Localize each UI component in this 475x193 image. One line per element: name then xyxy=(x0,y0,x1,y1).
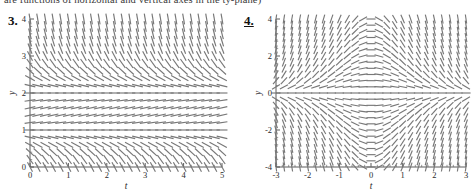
figure-4-xtick-5: 2 xyxy=(432,170,436,180)
figure-4-xtick-2: -1 xyxy=(336,170,343,180)
figure-4-xtick-4: 1 xyxy=(401,170,405,180)
figure-3-number: 3. xyxy=(8,13,18,29)
figure-3-ytick-0: 0 xyxy=(22,162,26,172)
figure-4-xlabel: t xyxy=(370,181,373,191)
figure-4-xtick-0: -3 xyxy=(272,170,279,180)
figure-4-ytick-1: -2 xyxy=(265,125,272,135)
figure-3-xtick-3: 3 xyxy=(143,170,147,180)
figure-4-ylabel: y xyxy=(253,91,263,95)
caption-text: are functions of horizontal and vertical… xyxy=(4,0,261,5)
figure-3-ylabel: y xyxy=(7,91,17,95)
figure-4-ytick-2: 0 xyxy=(268,88,272,98)
cut-off-caption: are functions of horizontal and vertical… xyxy=(0,0,475,7)
figure-3-ytick-1: 1 xyxy=(22,125,26,135)
figure-3-plot-area: 01234501234ty xyxy=(30,19,222,167)
figure-4-number: 4. xyxy=(244,13,254,29)
figure-4-xtick-3: 0 xyxy=(369,170,373,180)
figure-4-ytick-0: -4 xyxy=(265,162,272,172)
figure-3-xtick-0: 0 xyxy=(28,170,32,180)
figure-4-xtick-1: -2 xyxy=(304,170,311,180)
figure-3-ytick-3: 3 xyxy=(22,51,26,61)
figure-4-plot-area: -3-2-10123-4-2024ty xyxy=(276,19,466,167)
figure-4-ytick-4: 4 xyxy=(268,14,272,24)
figure-3-xtick-4: 4 xyxy=(181,170,185,180)
figure-3: 3. 01234501234ty xyxy=(0,7,232,193)
figure-3-slope-field xyxy=(30,19,222,167)
figure-3-ytick-2: 2 xyxy=(22,88,26,98)
figure-3-xlabel: t xyxy=(125,181,128,191)
figure-4-ytick-3: 2 xyxy=(268,51,272,61)
figure-4: 4. -3-2-10123-4-2024ty xyxy=(238,7,475,193)
figure-4-slope-field xyxy=(276,19,466,167)
figure-3-ytick-4: 4 xyxy=(22,14,26,24)
figure-4-xtick-6: 3 xyxy=(464,170,468,180)
figure-3-xtick-2: 2 xyxy=(105,170,109,180)
figure-3-xtick-5: 5 xyxy=(220,170,224,180)
figure-3-xtick-1: 1 xyxy=(66,170,70,180)
